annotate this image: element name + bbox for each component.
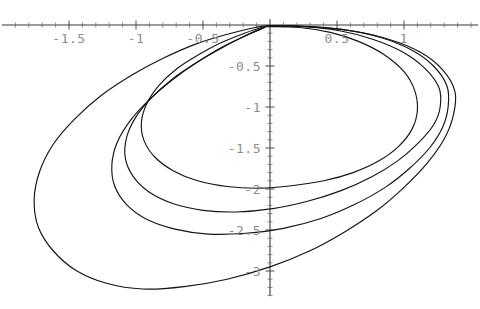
- y-tick-label: -2: [244, 182, 261, 197]
- curve-1-innermost: [141, 27, 417, 189]
- plot-figure: -1.5-1-0.50.51-0.5-1-1.5-2-2.5-3: [0, 0, 480, 309]
- tick-labels-group: -1.5-1-0.50.51-0.5-1-1.5-2-2.5-3: [52, 31, 408, 279]
- plot-canvas: -1.5-1-0.50.51-0.5-1-1.5-2-2.5-3: [0, 0, 480, 309]
- y-tick-label: -3: [244, 264, 261, 279]
- x-tick-label: -1.5: [52, 31, 85, 46]
- x-tick-label: -1: [128, 31, 145, 46]
- y-tick-label: -0.5: [228, 59, 261, 74]
- y-tick-label: -2.5: [228, 223, 261, 238]
- x-tick-label: -0.5: [186, 31, 219, 46]
- curve-3: [112, 26, 449, 235]
- x-tick-label: 0.5: [325, 31, 350, 46]
- y-tick-label: -1: [244, 100, 261, 115]
- y-tick-label: -1.5: [228, 141, 261, 156]
- x-tick-label: 1: [400, 31, 408, 46]
